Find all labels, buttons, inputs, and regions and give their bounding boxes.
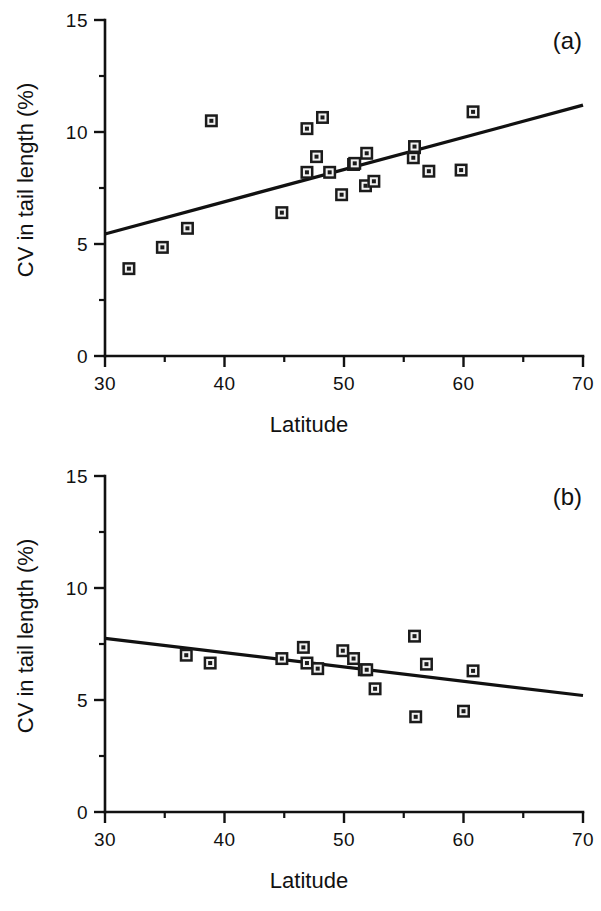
data-point-marker xyxy=(316,111,329,124)
data-point-marker xyxy=(348,157,361,170)
data-point-marker xyxy=(422,165,435,178)
y-tick-label: 10 xyxy=(66,122,88,143)
data-point-marker xyxy=(467,105,480,118)
data-point-marker xyxy=(455,164,468,177)
panel-label-a: (a) xyxy=(553,27,582,54)
figure-two-panel-scatter: 3040506070051015LatitudeCV in tail lengt… xyxy=(0,0,601,911)
data-point-marker xyxy=(409,710,422,723)
data-point-marker xyxy=(310,150,323,163)
x-tick-label: 30 xyxy=(94,829,116,850)
x-tick-label: 40 xyxy=(213,373,235,394)
data-point-marker xyxy=(275,206,288,219)
data-point-marker xyxy=(347,652,360,665)
data-point-marker xyxy=(457,705,470,718)
x-tick-label: 60 xyxy=(452,373,474,394)
x-tick-label: 40 xyxy=(213,829,235,850)
data-point-marker xyxy=(408,140,421,153)
panel-label-b: (b) xyxy=(553,483,582,510)
data-point-marker xyxy=(369,682,382,695)
data-point-marker xyxy=(335,188,348,201)
data-point-marker xyxy=(323,166,336,179)
x-tick-label: 50 xyxy=(333,829,355,850)
x-tick-label: 60 xyxy=(452,829,474,850)
data-point-marker xyxy=(122,262,135,275)
x-tick-label: 70 xyxy=(572,829,594,850)
data-point-marker xyxy=(467,664,480,677)
y-tick-label: 0 xyxy=(77,802,88,823)
data-point-marker xyxy=(408,630,421,643)
plot-area-a: 3040506070051015LatitudeCV in tail lengt… xyxy=(0,0,601,455)
data-point-marker xyxy=(300,166,313,179)
y-tick-label: 10 xyxy=(66,578,88,599)
data-point-marker xyxy=(360,663,373,676)
plot-area-b: 3040506070051015LatitudeCV in tail lengt… xyxy=(0,456,601,911)
x-tick-label: 30 xyxy=(94,373,116,394)
x-tick-label: 70 xyxy=(572,373,594,394)
data-point-marker xyxy=(311,662,324,675)
data-point-marker xyxy=(300,122,313,135)
y-axis-title: CV in tail length (%) xyxy=(13,83,38,277)
data-point-marker xyxy=(181,222,194,235)
data-point-marker xyxy=(275,652,288,665)
y-tick-label: 15 xyxy=(66,466,88,487)
data-point-marker xyxy=(205,114,218,127)
data-point-marker xyxy=(420,658,433,671)
x-axis-title: Latitude xyxy=(270,868,348,893)
y-tick-label: 0 xyxy=(77,346,88,367)
y-axis-title: CV in tail length (%) xyxy=(13,539,38,733)
panel-b: 3040506070051015LatitudeCV in tail lengt… xyxy=(0,456,601,911)
y-tick-label: 5 xyxy=(77,234,88,255)
regression-line xyxy=(105,105,583,234)
x-axis-title: Latitude xyxy=(270,412,348,437)
x-tick-label: 50 xyxy=(333,373,355,394)
panel-a: 3040506070051015LatitudeCV in tail lengt… xyxy=(0,0,601,455)
data-point-marker xyxy=(180,649,193,662)
data-point-marker xyxy=(204,657,217,670)
data-point-marker xyxy=(297,641,310,654)
data-point-marker xyxy=(156,241,169,254)
y-tick-label: 5 xyxy=(77,690,88,711)
data-point-marker xyxy=(360,147,373,160)
data-point-marker xyxy=(367,175,380,188)
y-tick-label: 15 xyxy=(66,10,88,31)
